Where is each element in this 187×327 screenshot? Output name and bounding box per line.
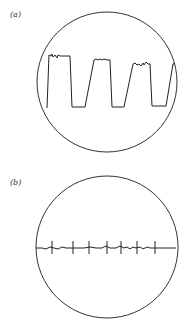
square-wave-trace (47, 54, 175, 108)
panel-b-scope (36, 176, 178, 318)
oscilloscope-figure (0, 0, 187, 327)
scope-screen-a (37, 12, 177, 152)
panel-a-scope (37, 12, 177, 152)
